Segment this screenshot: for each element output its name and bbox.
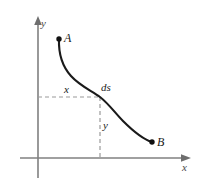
x-axis-label: x [182,162,187,173]
point-b-marker [149,139,154,144]
diagram-canvas [0,0,200,188]
x-projection-label: x [64,84,69,95]
point-a-marker [56,36,61,41]
y-axis-label: y [41,18,46,29]
y-projection-label: y [103,120,108,131]
figure-container: y x A B ds x y [0,0,200,188]
point-b-label: B [157,136,164,148]
ds-arc-length-label: ds [101,82,111,93]
point-a-label: A [64,32,71,44]
